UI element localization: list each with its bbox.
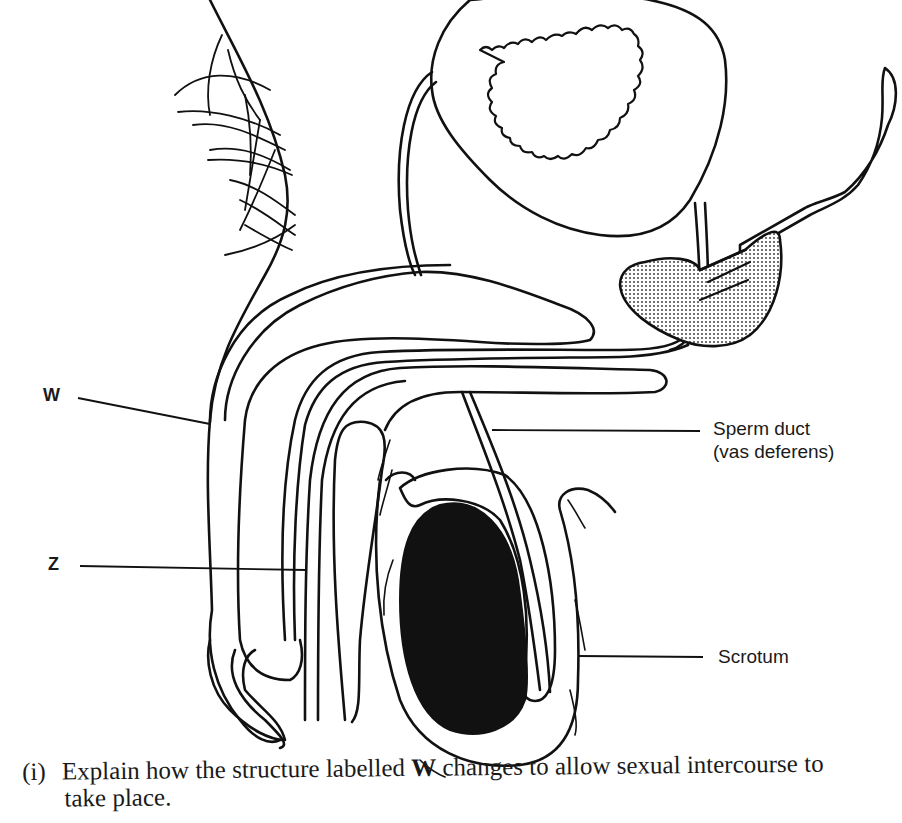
label-sperm-duct-line1: Sperm duct (713, 417, 834, 440)
vas-deferens-loop-outer (399, 72, 432, 275)
label-sperm-duct-line2: (vas deferens) (713, 440, 834, 463)
bladder-outline (431, 0, 726, 236)
question-bold-ref: W (411, 754, 436, 781)
label-w: W (43, 384, 60, 407)
question-i: (i) Explain how the structure labelled W… (22, 749, 902, 812)
prostate-gland (620, 232, 781, 346)
scrotum-leader-line (578, 656, 703, 657)
label-z: Z (48, 553, 59, 576)
label-sperm-duct: Sperm duct (vas deferens) (713, 417, 834, 463)
sperm-duct-leader-line (492, 430, 700, 431)
w-leader-line (78, 398, 210, 424)
glans (208, 640, 285, 740)
label-scrotum: Scrotum (718, 645, 789, 668)
z-leader-line (80, 566, 306, 570)
question-text-before: Explain how the structure labelled (62, 754, 405, 785)
seminal-vesicle (740, 68, 896, 255)
male-reproductive-system-diagram (0, 0, 902, 823)
question-text-after: changes to allow sexual intercourse to (442, 750, 823, 781)
question-number: (i) (22, 758, 46, 785)
bladder-lining (480, 25, 643, 159)
vas-deferens-loop-inner (407, 82, 436, 275)
